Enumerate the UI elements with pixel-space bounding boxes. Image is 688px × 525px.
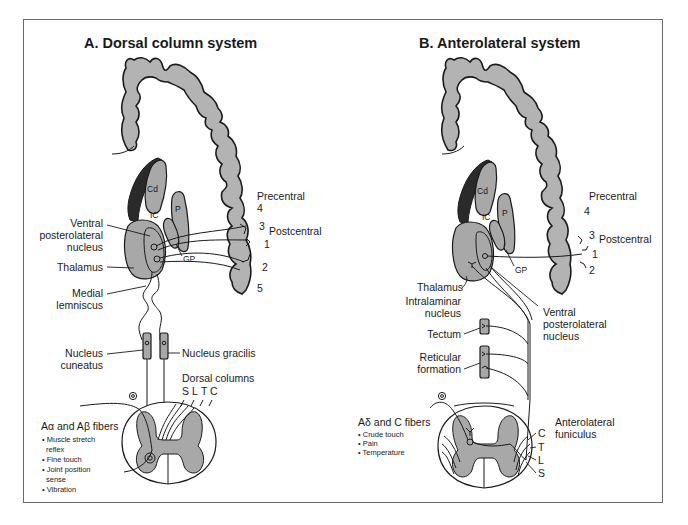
panel-b-fiber-item-3: • Temperature bbox=[358, 448, 405, 457]
panel-b-terminals bbox=[578, 236, 588, 268]
panel-a-fiber-item-5: sense bbox=[46, 475, 66, 484]
panel-b-title: B. Anterolateral system bbox=[419, 35, 580, 51]
panel-a-label-gracilis: Nucleus gracilis bbox=[182, 347, 256, 359]
panel-b-label-area-2: 2 bbox=[589, 264, 595, 276]
panel-a-label-cuneatus-2: cuneatus bbox=[60, 359, 103, 371]
panel-a-projection-4 bbox=[160, 261, 240, 270]
panel-b-reticular-formation bbox=[480, 346, 489, 378]
panel-a-label-area-1: 1 bbox=[264, 238, 270, 250]
panel-a-dc-t: T bbox=[201, 385, 208, 397]
panel-b-drg bbox=[438, 392, 445, 399]
panel-a-drg bbox=[129, 392, 136, 399]
panel-a-label-gp: GP bbox=[183, 254, 196, 264]
panel-b-al-c: C bbox=[538, 427, 546, 439]
panel-b-reticular-leader bbox=[464, 363, 480, 369]
panel-b-fiber-item-2: • Pain bbox=[358, 439, 378, 448]
panel-a-dorsal-column: A. Dorsal column system Cd IC P GP bbox=[39, 35, 321, 494]
panel-b-al-l: L bbox=[538, 454, 544, 466]
panel-b-drg-core bbox=[441, 395, 444, 398]
panel-b-label-intralaminar-1: Intralaminar bbox=[406, 295, 462, 307]
panel-b-label-vpl-3: nucleus bbox=[543, 330, 579, 342]
diagram-canvas: A. Dorsal column system Cd IC P GP bbox=[0, 0, 688, 525]
panel-a-label-precentral: Precentral bbox=[257, 190, 305, 202]
panel-b-label-area-3: 3 bbox=[589, 229, 595, 241]
panel-a-dc-s: S bbox=[182, 385, 189, 397]
panel-a-label-ml-1: Medial bbox=[72, 287, 103, 299]
panel-b-fiber-item-1: • Crude touch bbox=[358, 430, 404, 439]
panel-a-fiber-item-3: • Fine touch bbox=[42, 455, 82, 464]
panel-a-label-vpl-1: Ventral bbox=[70, 217, 103, 229]
panel-b-al-s: S bbox=[538, 467, 545, 479]
panel-a-fiber-item-4: • Joint position bbox=[42, 465, 91, 474]
panel-a-label-p: P bbox=[175, 204, 181, 214]
panel-b-label-area-1: 1 bbox=[592, 248, 598, 260]
panel-b-label-al-2: funiculus bbox=[555, 428, 596, 440]
panel-b-label-al-1: Anterolateral bbox=[555, 416, 615, 428]
panel-a-label-cuneatus-1: Nucleus bbox=[65, 347, 103, 359]
panel-b-tract-vpl-1 bbox=[486, 268, 530, 400]
panel-b-label-postcentral: Postcentral bbox=[599, 233, 652, 245]
panel-a-nucleus-gracilis bbox=[160, 333, 168, 359]
panel-a-fiber-item-1: • Muscle stretch bbox=[42, 435, 95, 444]
panel-a-label-vpl-2: posterolateral bbox=[39, 229, 103, 241]
panel-a-label-ic: IC bbox=[150, 210, 159, 220]
panel-b-label-reticular-2: formation bbox=[417, 363, 461, 375]
panel-a-label-thalamus: Thalamus bbox=[57, 261, 103, 273]
panel-b-label-vpl-1: Ventral bbox=[543, 306, 576, 318]
panel-b-thalamus bbox=[453, 222, 494, 281]
panel-a-dc-c: C bbox=[210, 385, 218, 397]
panel-a-label-area-3: 3 bbox=[259, 220, 265, 232]
figure: A. Dorsal column system Cd IC P GP bbox=[0, 0, 688, 525]
panel-a-ml-leader bbox=[107, 286, 146, 294]
panel-b-label-gp: GP bbox=[515, 265, 528, 275]
panel-a-label-ml-2: lemniscus bbox=[56, 299, 103, 311]
panel-b-reticular-fibers bbox=[486, 354, 528, 396]
panel-a-dc-l: L bbox=[192, 385, 198, 397]
panel-b-label-cd: Cd bbox=[477, 186, 488, 196]
panel-a-fibers-heading: Aα and Aβ fibers bbox=[41, 420, 119, 432]
panel-a-drg-core bbox=[132, 395, 135, 398]
panel-a-label-vpl-3: nucleus bbox=[67, 241, 103, 253]
panel-b-tectum-leader bbox=[464, 328, 480, 334]
panel-a-label-dorsal-columns: Dorsal columns bbox=[182, 372, 254, 384]
panel-b-label-intralaminar-2: nucleus bbox=[425, 307, 461, 319]
panel-a-fiber-item-2: reflex bbox=[46, 445, 65, 454]
panel-b-tectum-fiber bbox=[486, 326, 528, 344]
panel-a-label-area-4: 4 bbox=[257, 202, 263, 214]
panel-b-label-area-4: 4 bbox=[584, 205, 590, 217]
panel-b-al-t: T bbox=[538, 441, 545, 453]
panel-a-lemniscus-1 bbox=[139, 272, 152, 340]
panel-a-cuneatus-leader bbox=[107, 350, 143, 354]
panel-b-label-thalamus: Thalamus bbox=[417, 281, 463, 293]
panel-a-label-area-2: 2 bbox=[262, 261, 268, 273]
panel-a-label-area-5: 5 bbox=[257, 282, 263, 294]
panel-a-label-postcentral: Postcentral bbox=[269, 225, 322, 237]
panel-b-anterolateral: B. Anterolateral system Cd IC P GP Prece… bbox=[358, 35, 652, 488]
panel-b-label-tectum: Tectum bbox=[427, 328, 461, 340]
panel-a-title: A. Dorsal column system bbox=[84, 35, 257, 51]
panel-a-lemniscus-2 bbox=[152, 274, 162, 340]
panel-b-label-precentral: Precentral bbox=[589, 190, 637, 202]
panel-a-fiber-item-6: • Vibration bbox=[42, 485, 76, 494]
panel-b-label-reticular-1: Reticular bbox=[420, 351, 462, 363]
panel-b-fibers-heading: Aδ and C fibers bbox=[358, 416, 430, 428]
panel-b-label-vpl-2: posterolateral bbox=[543, 318, 607, 330]
panel-b-label-ic: IC bbox=[482, 212, 491, 222]
panel-a-nucleus-cuneatus bbox=[143, 333, 151, 359]
panel-b-label-p: P bbox=[502, 208, 508, 218]
panel-a-label-cd: Cd bbox=[147, 184, 158, 194]
